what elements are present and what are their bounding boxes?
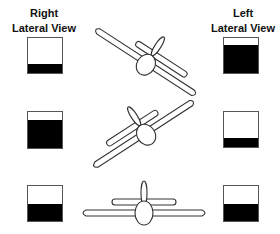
airplane-icon-banked-right	[89, 4, 212, 105]
airplane-icon-banked-left	[77, 76, 200, 177]
airplane-diagrams	[0, 0, 280, 234]
airplane-icon-level	[83, 181, 205, 225]
